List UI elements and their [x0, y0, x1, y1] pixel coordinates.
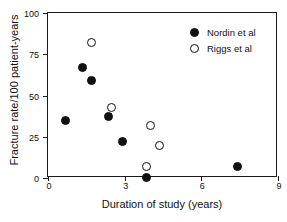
chart-legend: Nordin et alRiggs et al: [183, 23, 260, 59]
data-point: [87, 38, 96, 47]
legend-entry: Nordin et al: [187, 25, 256, 39]
y-tick-label: 75: [29, 51, 39, 60]
data-point: [142, 173, 151, 182]
x-tick: 0: [48, 176, 49, 181]
legend-marker: [190, 28, 199, 37]
y-tick-label: 100: [24, 10, 39, 19]
y-tick-label: 0: [34, 175, 39, 184]
x-tick-label: 0: [46, 182, 51, 191]
legend-entry: Riggs et al: [187, 41, 256, 55]
data-point: [118, 137, 127, 146]
y-tick: 25: [43, 137, 48, 138]
x-tick-label: 9: [276, 182, 281, 191]
data-point: [107, 103, 116, 112]
filled-circle-icon: [187, 25, 201, 39]
open-circle-icon: [187, 41, 201, 55]
x-axis-label: Duration of study (years): [47, 198, 277, 211]
data-point: [142, 162, 151, 171]
legend-marker: [190, 44, 199, 53]
y-tick: 50: [43, 96, 48, 97]
data-point: [87, 76, 96, 85]
x-tick-label: 6: [200, 182, 205, 191]
y-tick-label: 50: [29, 92, 39, 101]
x-tick: 3: [125, 176, 126, 181]
x-tick: 6: [201, 176, 202, 181]
y-axis-label: Fracture rate/100 patient-years: [6, 5, 22, 175]
plot-area: 0255075100 0369 Nordin et alRiggs et al: [47, 12, 277, 177]
y-tick: 75: [43, 54, 48, 55]
data-point: [78, 63, 87, 72]
y-tick: 100: [43, 13, 48, 14]
data-point: [61, 116, 70, 125]
x-tick-label: 3: [123, 182, 128, 191]
data-point: [146, 121, 155, 130]
x-tick: 9: [278, 176, 279, 181]
legend-label: Riggs et al: [207, 43, 252, 54]
legend-label: Nordin et al: [207, 27, 256, 38]
y-tick-label: 25: [29, 133, 39, 142]
data-point: [233, 162, 242, 171]
data-point: [104, 112, 113, 121]
data-point: [155, 141, 164, 150]
scatter-chart-figure: Fracture rate/100 patient-years 02550751…: [0, 0, 287, 222]
